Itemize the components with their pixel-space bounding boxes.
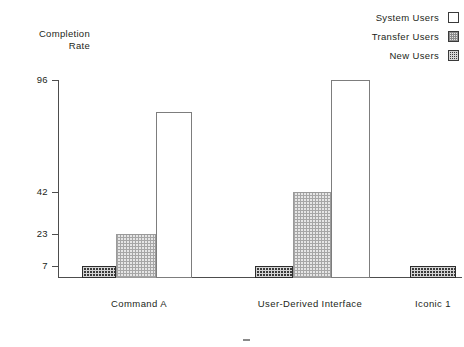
footer-artifact-mark bbox=[243, 339, 250, 341]
bar-new-users-user-derived-interface bbox=[255, 266, 293, 278]
bar-transfer-users-user-derived-interface bbox=[293, 192, 331, 278]
open-square-swatch-icon bbox=[448, 12, 459, 23]
chart-legend: System Users Transfer Users New Users bbox=[372, 12, 459, 61]
dark-hatch-swatch-icon bbox=[448, 50, 459, 61]
legend-item-transfer-users: Transfer Users bbox=[372, 31, 459, 42]
bar-transfer-users-command-a bbox=[116, 234, 156, 278]
legend-label-new-users: New Users bbox=[389, 50, 439, 61]
bar-new-users-command-a bbox=[82, 266, 116, 278]
x-category-label-iconic-1: Iconic 1 bbox=[404, 298, 462, 309]
legend-label-transfer-users: Transfer Users bbox=[372, 31, 439, 42]
y-tick-mark-7 bbox=[52, 266, 59, 267]
bar-chart-figure: Completion Rate System Users Transfer Us… bbox=[0, 0, 464, 347]
y-axis-line bbox=[58, 80, 59, 278]
bar-new-users-iconic-1 bbox=[410, 266, 456, 278]
legend-label-system-users: System Users bbox=[376, 12, 439, 23]
light-hatch-swatch-icon bbox=[448, 31, 459, 42]
y-tick-label-7: 7 bbox=[4, 260, 48, 271]
y-tick-mark-42 bbox=[52, 192, 59, 193]
y-tick-mark-96 bbox=[52, 80, 59, 81]
y-tick-mark-23 bbox=[52, 234, 59, 235]
y-tick-label-42: 42 bbox=[4, 186, 48, 197]
y-axis-title: Completion Rate bbox=[4, 28, 90, 52]
legend-item-new-users: New Users bbox=[372, 50, 459, 61]
y-tick-label-23: 23 bbox=[4, 228, 48, 239]
bar-system-users-command-a bbox=[156, 112, 192, 278]
x-category-label-command-a: Command A bbox=[86, 298, 192, 309]
bar-system-users-user-derived-interface bbox=[331, 80, 370, 278]
x-category-label-user-derived-interface: User-Derived Interface bbox=[245, 298, 375, 309]
y-tick-label-96: 96 bbox=[4, 74, 48, 85]
legend-item-system-users: System Users bbox=[372, 12, 459, 23]
